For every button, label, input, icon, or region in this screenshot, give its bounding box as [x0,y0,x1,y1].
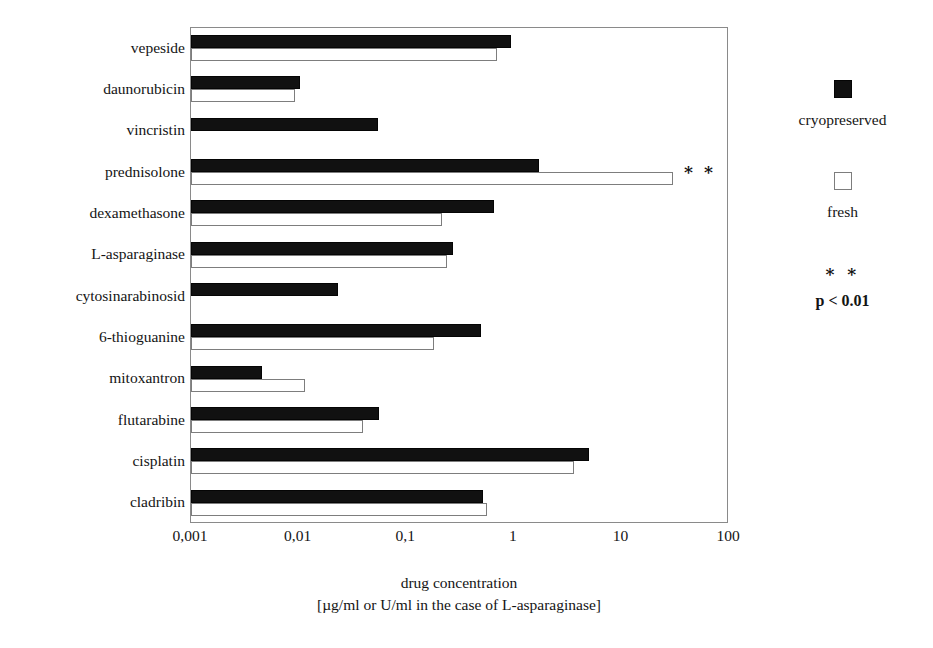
bar-fresh [191,213,442,226]
bar-fresh [191,337,434,350]
y-axis-label-flutarabine: flutarabine [3,412,185,428]
legend-entry-fresh: fresh [760,172,925,220]
significance-annotation: ∗ ∗ [683,161,717,178]
legend-label-fresh: fresh [760,204,925,220]
bar-cryopreserved [191,200,494,213]
bar-cryopreserved [191,324,481,337]
x-axis-tick-labels: 0,0010,010,1110100 [190,528,728,552]
bar-fresh [191,420,363,433]
bar-row [191,193,727,234]
y-axis-label-cladribin: cladribin [3,494,185,510]
bar-cryopreserved [191,76,300,89]
plot-area: ∗ ∗ [190,27,728,523]
x-tick-label: 0,001 [173,528,208,544]
bar-row: ∗ ∗ [191,152,727,193]
chart-legend: cryopreserved fresh ∗ ∗ p < 0.01 [760,80,925,309]
bar-cryopreserved [191,490,483,503]
y-axis-label-dexamethasone: dexamethasone [3,205,185,221]
bar-fresh [191,89,295,102]
x-axis-title: drug concentration [µg/ml or U/ml in the… [190,572,728,617]
bar-cryopreserved [191,159,539,172]
bar-cryopreserved [191,407,379,420]
bar-row [191,235,727,276]
y-axis-label-vincristin: vincristin [3,122,185,138]
x-axis-title-line1: drug concentration [190,572,728,594]
bar-fresh [191,379,305,392]
bar-row [191,317,727,358]
bar-fresh [191,48,497,61]
x-tick-label: 100 [716,528,739,544]
legend-label-cryopreserved: cryopreserved [760,112,925,128]
bar-row [191,276,727,317]
bar-cryopreserved [191,448,589,461]
x-tick-label: 0,01 [284,528,311,544]
x-tick-label: 0,1 [396,528,415,544]
bar-row [191,69,727,110]
y-axis-label-vepeside: vepeside [3,40,185,56]
bar-fresh [191,461,574,474]
bar-cryopreserved [191,366,262,379]
x-tick-label: 1 [509,528,517,544]
legend-swatch-filled-square [834,80,852,98]
bar-cryopreserved [191,242,453,255]
y-axis-label-daunorubicin: daunorubicin [3,81,185,97]
bar-fresh [191,255,447,268]
bar-cryopreserved [191,118,378,131]
bar-row [191,483,727,524]
bar-row [191,441,727,482]
bar-row [191,400,727,441]
legend-swatch-hollow-square [834,172,852,190]
significance-p-value: p < 0.01 [760,293,925,309]
bar-cryopreserved [191,35,511,48]
bar-row [191,28,727,69]
bar-row [191,111,727,152]
y-axis-label-6-thioguanine: 6-thioguanine [3,329,185,345]
y-axis-label-mitoxantron: mitoxantron [3,370,185,386]
drug-concentration-chart: vepesidedaunorubicinvincristinprednisolo… [0,0,933,648]
y-axis-label-cisplatin: cisplatin [3,453,185,469]
legend-entry-cryopreserved: cryopreserved [760,80,925,128]
x-axis-title-line2: [µg/ml or U/ml in the case of L-asparagi… [190,594,728,616]
y-axis-category-labels: vepesidedaunorubicinvincristinprednisolo… [0,27,185,523]
bar-row [191,359,727,400]
legend-significance-note: ∗ ∗ p < 0.01 [760,263,925,309]
y-axis-label-prednisolone: prednisolone [3,164,185,180]
significance-stars: ∗ ∗ [760,263,925,280]
bar-fresh [191,503,487,516]
y-axis-label-cytosinarabinosid: cytosinarabinosid [3,288,185,304]
bar-fresh [191,172,673,185]
bar-cryopreserved [191,283,338,296]
y-axis-label-l-asparaginase: L-asparaginase [3,246,185,262]
x-tick-label: 10 [613,528,629,544]
